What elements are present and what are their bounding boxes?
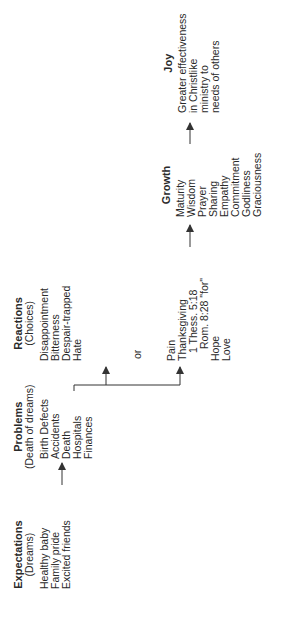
reactions-group: Reactions (Choices) Disappointment Bitte…	[12, 286, 83, 361]
or-label: or	[131, 350, 143, 359]
joy-group: Joy Greater effectiveness in Christlike …	[162, 13, 221, 113]
list-item: Finances	[83, 384, 94, 459]
growth-title: Growth	[160, 153, 172, 217]
problems-group: Problems (Death of dreams) Birth Defects…	[12, 384, 94, 469]
expectations-subtitle: (Dreams)	[24, 520, 35, 589]
list-item: Graciousness	[252, 153, 263, 217]
joy-title: Joy	[162, 13, 174, 113]
problems-subtitle: (Death of dreams)	[24, 384, 35, 469]
diagram-canvas: Expectations (Dreams) Healthy baby Famil…	[0, 0, 290, 641]
reactions-subtitle: (Choices)	[24, 286, 35, 361]
expectations-group: Expectations (Dreams) Healthy baby Famil…	[12, 520, 72, 589]
list-item: needs of others	[210, 13, 221, 113]
growth-group: Growth Maturity Wisdom Prayer Sharing Em…	[160, 153, 263, 217]
list-item: Excited friends	[61, 520, 72, 589]
list-item: Love	[221, 278, 232, 361]
list-item: Hate	[72, 286, 83, 361]
positive-reactions-group: Pain Thanksgiving 1 Thess. 5:18 Rom. 8:2…	[162, 278, 232, 361]
